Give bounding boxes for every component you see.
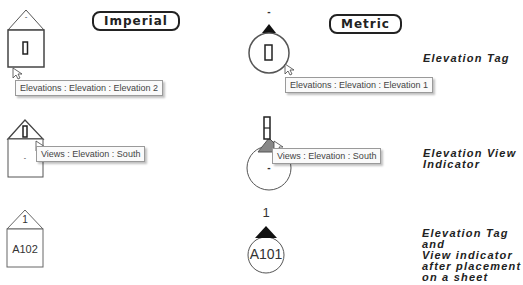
imperial-indicator-center-label: - bbox=[20, 154, 30, 161]
imperial-placed-sheet-number: A102 bbox=[7, 243, 43, 255]
imperial-tag-top-label: - bbox=[20, 12, 32, 21]
view-marker-rectangle-icon bbox=[23, 126, 27, 137]
arrow-cursor-icon bbox=[12, 67, 22, 81]
imperial-indicator-tooltip: Views : Elevation : South bbox=[36, 146, 145, 162]
metric-indicator-tooltip: Views : Elevation : South bbox=[272, 148, 381, 164]
arrow-cursor-icon bbox=[284, 63, 294, 77]
imperial-header: Imperial bbox=[92, 11, 180, 31]
metric-placed-detail-number: 1 bbox=[259, 205, 273, 220]
caption-elevation-tag: Elevation Tag bbox=[423, 53, 510, 64]
imperial-tag-tooltip: Elevations : Elevation : Elevation 2 bbox=[15, 80, 163, 96]
metric-tag-tooltip: Elevations : Elevation : Elevation 1 bbox=[285, 77, 433, 93]
house-shaped-tag-icon bbox=[0, 0, 60, 70]
caption-line: Elevation Tag and bbox=[422, 228, 523, 250]
metric-placed-sheet-number: A101 bbox=[248, 246, 284, 262]
imperial-placed-detail-number: 1 bbox=[18, 214, 32, 225]
caption-line: Elevation Tag bbox=[423, 53, 510, 64]
caption-placed-on-sheet: Elevation Tag and View indicator after p… bbox=[422, 228, 523, 283]
caption-line: Indicator bbox=[423, 159, 516, 170]
caption-elevation-view-indicator: Elevation View Indicator bbox=[423, 148, 516, 170]
metric-header: Metric bbox=[329, 14, 402, 34]
caption-line: on a sheet bbox=[422, 272, 523, 283]
